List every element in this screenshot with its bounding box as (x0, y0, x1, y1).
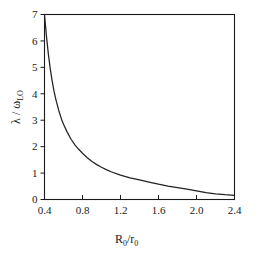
y-tick-label: 6 (32, 35, 38, 47)
y-tick-label: 4 (32, 88, 38, 100)
x-tick-label: 1.2 (114, 204, 128, 216)
y-tick-label: 2 (32, 140, 38, 152)
y-tick-label: 3 (32, 114, 38, 126)
chart-figure: 01234567 0.40.81.21.62.02.4 R0/r0 λ / ωL… (0, 0, 261, 255)
x-axis-title-main1: R (115, 232, 123, 246)
x-tick-label: 2.4 (228, 204, 242, 216)
chart-background (0, 0, 261, 255)
x-tick-label: 2.0 (190, 204, 204, 216)
y-axis-title-omega: ω (9, 101, 23, 109)
x-tick-label: 1.6 (152, 204, 166, 216)
y-axis-title-slash: / (9, 109, 23, 118)
y-tick-label: 7 (32, 8, 38, 20)
x-axis-title-sub2: 0 (134, 239, 138, 248)
x-tick-label: 0.4 (38, 204, 52, 216)
chart-plot-area: 01234567 0.40.81.21.62.02.4 R0/r0 λ / ωL… (0, 0, 261, 255)
y-tick-label: 5 (32, 61, 38, 73)
y-axis-title-sub: LO (16, 90, 25, 101)
x-tick-label: 0.8 (76, 204, 90, 216)
y-tick-label: 1 (32, 167, 38, 179)
